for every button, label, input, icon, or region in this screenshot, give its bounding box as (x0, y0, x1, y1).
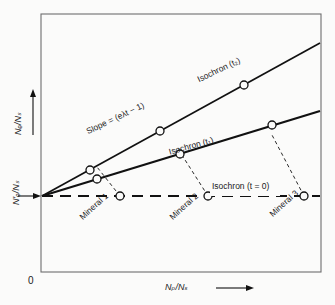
data-point-mineral-1-t1 (93, 175, 101, 183)
y-axis-intercept-label: N′ₑ/Nₛ (12, 181, 21, 205)
isochron-t0-label: Isochron (t = 0) (212, 182, 269, 191)
data-point-mineral-2-t2 (156, 127, 164, 135)
x-axis-arrow (216, 285, 254, 291)
plot-canvas (0, 0, 335, 305)
data-point-mineral-1-t0 (116, 192, 124, 200)
y-axis-title: Nₑ/Nₛ (14, 113, 23, 135)
y-axis-arrow (30, 89, 36, 135)
data-point-mineral-3-t2 (240, 81, 248, 89)
origin-label: 0 (28, 276, 34, 286)
data-point-mineral-1-t2 (86, 166, 94, 174)
isochron-diagram-figure: Nₑ/Nₛ N′ₑ/Nₛ Nₚ/Nₛ 0 Slope = (eλt − 1) I… (0, 0, 335, 305)
intercept-arrow (18, 193, 41, 199)
x-axis-title: Nₚ/Nₛ (165, 283, 188, 292)
data-point-mineral-3-t1 (268, 121, 276, 129)
data-point-mineral-3-t0 (300, 192, 308, 200)
